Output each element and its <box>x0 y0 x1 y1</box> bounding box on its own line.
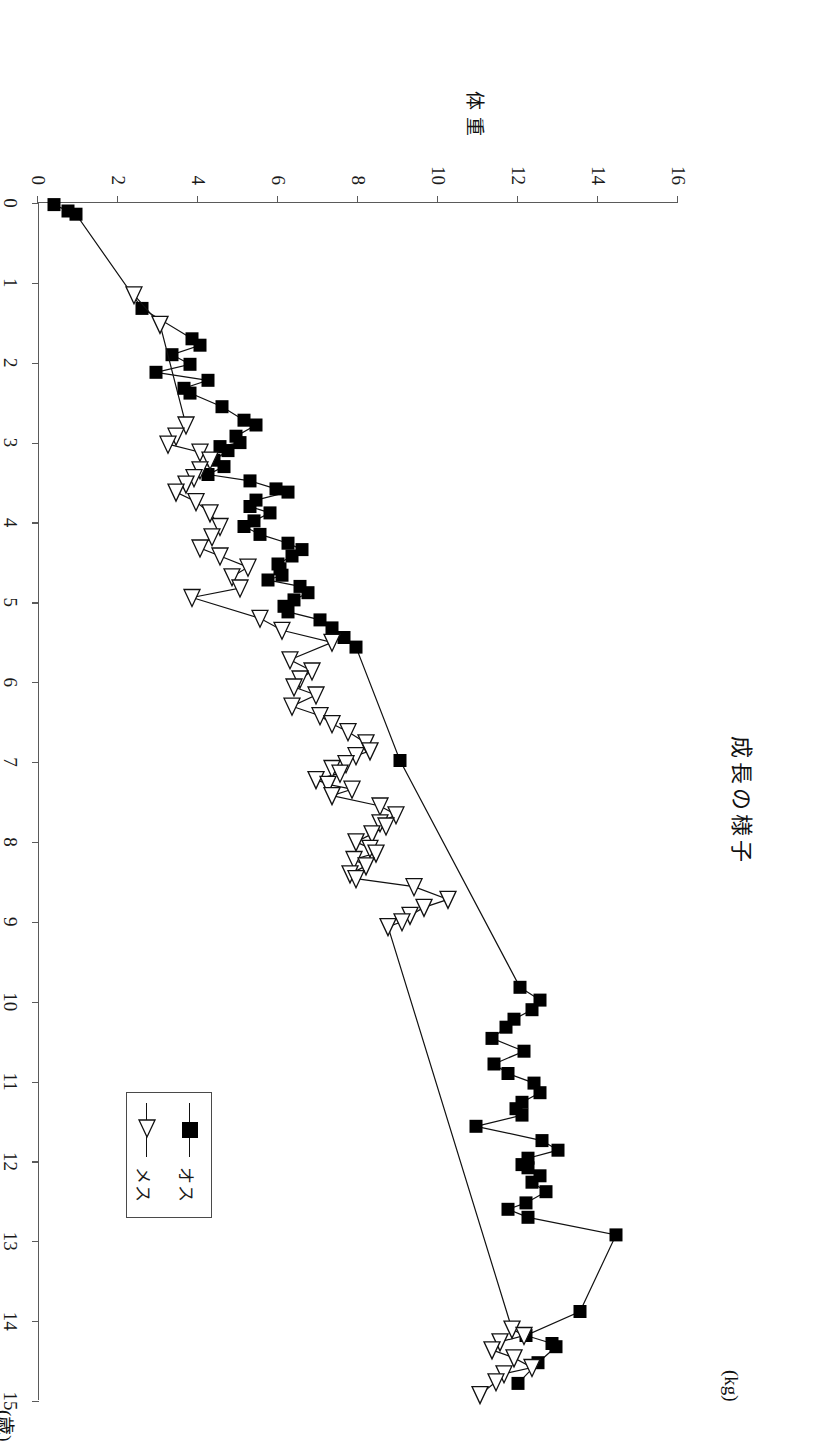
x-axis-tick-label: 5 <box>1 598 20 608</box>
data-point-open-triangle <box>212 548 228 565</box>
y-axis-title: 体重 <box>463 42 490 192</box>
data-point-filled-square <box>261 574 274 587</box>
y-axis-tick <box>276 196 277 203</box>
data-point-open-triangle <box>484 1342 500 1359</box>
y-axis-tick-label: 10 <box>428 166 447 185</box>
data-point-open-triangle <box>348 834 364 851</box>
data-point-filled-square <box>487 1058 500 1071</box>
data-point-filled-square <box>237 520 250 533</box>
y-axis-tick-label: 14 <box>588 166 607 185</box>
data-point-filled-square <box>183 387 196 400</box>
data-point-filled-square <box>253 528 266 541</box>
data-point-filled-square <box>183 358 196 371</box>
data-point-open-triangle <box>192 540 208 557</box>
plot-area: 01234567891011121314150246810121416 <box>38 202 678 1400</box>
data-point-filled-square <box>513 981 526 994</box>
data-point-filled-square <box>515 1109 528 1122</box>
x-axis-tick-label: 6 <box>1 677 20 687</box>
data-point-open-triangle <box>282 652 298 669</box>
data-point-filled-square <box>275 569 288 582</box>
data-point-filled-square <box>609 1228 622 1241</box>
x-axis-tick <box>32 762 39 763</box>
data-point-open-triangle <box>324 634 340 651</box>
legend-item-male: オス <box>168 1093 211 1217</box>
y-axis-tick-label: 2 <box>108 176 127 186</box>
y-axis-tick-label: 0 <box>28 176 47 186</box>
data-point-filled-square <box>501 1203 514 1216</box>
legend-label-female: メス <box>132 1167 157 1203</box>
data-point-open-triangle <box>372 798 388 815</box>
y-axis-unit: (kg) <box>720 1370 742 1402</box>
data-point-filled-square <box>281 605 294 618</box>
data-point-filled-square <box>201 374 214 387</box>
data-point-open-triangle <box>232 580 248 597</box>
data-point-filled-square <box>313 613 326 626</box>
data-point-open-triangle <box>362 743 378 760</box>
x-axis-tick <box>32 1082 39 1083</box>
y-axis-tick <box>356 196 357 203</box>
data-point-filled-square <box>325 621 338 634</box>
data-point-filled-square <box>573 1305 586 1318</box>
y-axis-tick <box>36 196 37 203</box>
x-axis-tick-label: 0 <box>1 198 20 208</box>
y-axis-tick <box>116 196 117 203</box>
data-point-filled-square <box>281 537 294 550</box>
data-point-open-triangle <box>160 436 176 453</box>
data-point-filled-square <box>285 550 298 563</box>
data-point-filled-square <box>521 1211 534 1224</box>
data-point-filled-square <box>533 1086 546 1099</box>
data-series-layer <box>38 203 678 1401</box>
x-axis-tick <box>32 922 39 923</box>
x-axis-tick <box>32 1161 39 1162</box>
data-point-filled-square <box>249 419 262 432</box>
data-point-filled-square <box>519 1196 532 1209</box>
x-axis-tick <box>32 842 39 843</box>
data-point-filled-square <box>549 1340 562 1353</box>
x-axis-tick <box>32 1002 39 1003</box>
data-point-filled-square <box>243 474 256 487</box>
y-axis-tick-label: 16 <box>668 166 687 185</box>
data-point-filled-square <box>301 586 314 599</box>
y-axis-tick <box>596 196 597 203</box>
x-axis-tick <box>32 203 39 204</box>
data-point-open-triangle <box>152 316 168 333</box>
data-point-open-triangle <box>344 781 360 798</box>
data-point-open-triangle <box>324 716 340 733</box>
x-axis-tick <box>32 522 39 523</box>
data-point-filled-square <box>233 436 246 449</box>
filled-square-icon <box>182 1122 198 1138</box>
data-point-open-triangle <box>406 879 422 896</box>
x-axis-tick-label: 12 <box>1 1152 20 1171</box>
x-axis-tick <box>32 443 39 444</box>
y-axis-tick-label: 12 <box>508 166 527 185</box>
chart-title: 成長の様子 <box>728 202 760 1400</box>
data-point-open-triangle <box>472 1387 488 1404</box>
data-point-open-triangle <box>340 724 356 741</box>
legend-box: オス メス <box>126 1092 212 1218</box>
data-point-open-triangle <box>380 919 396 936</box>
x-axis-unit: (歳) <box>0 1410 20 1442</box>
data-point-open-triangle <box>168 484 184 501</box>
data-point-open-triangle <box>506 1350 522 1367</box>
data-point-open-triangle <box>274 622 290 639</box>
data-point-open-triangle <box>308 687 324 704</box>
data-point-open-triangle <box>284 698 300 715</box>
x-axis-tick-label: 9 <box>1 917 20 927</box>
legend-item-female: メス <box>125 1093 168 1217</box>
data-point-filled-square <box>217 460 230 473</box>
open-triangle-icon <box>137 1119 157 1139</box>
x-axis-tick-label: 13 <box>1 1232 20 1251</box>
data-point-filled-square <box>215 400 228 413</box>
y-axis-tick-label: 8 <box>348 176 367 186</box>
x-axis-tick-label: 15 <box>1 1392 20 1411</box>
x-axis-tick <box>32 1321 39 1322</box>
x-axis-tick-label: 2 <box>1 358 20 368</box>
data-point-filled-square <box>551 1144 564 1157</box>
x-axis-tick-label: 8 <box>1 837 20 847</box>
data-point-open-triangle <box>440 891 456 908</box>
data-point-filled-square <box>521 1161 534 1174</box>
data-point-filled-square <box>539 1185 552 1198</box>
data-point-filled-square <box>525 1176 538 1189</box>
data-point-filled-square <box>281 486 294 499</box>
